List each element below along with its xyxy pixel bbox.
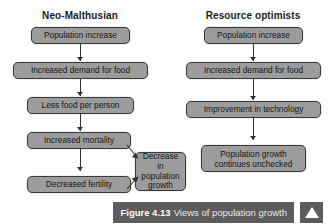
connector-arrowhead-nm3-nm4 [77, 127, 83, 131]
node-decrease-in-population-growth: Decrease in population growth [135, 152, 186, 191]
node-population-growth-continues-unchecked: Population growth continues unchecked [201, 145, 306, 172]
column-heading-neo-malthusian: Neo-Malthusian [24, 10, 136, 21]
connector-arrowhead-ro3-ro4 [250, 136, 256, 140]
column-heading-resource-optimists: Resource optimists [191, 10, 315, 21]
triangle-up-icon [305, 207, 319, 218]
connector-diagonal-mortality-to-decrease [126, 144, 142, 166]
node-improvement-in-technology: Improvement in technology [186, 101, 321, 118]
figure-number-label: Figure 4.13 [120, 207, 170, 218]
connector-arrowhead-nm4-nm5 [77, 167, 83, 171]
figure-container: Neo-Malthusian Population increase Incre… [0, 0, 330, 224]
node-increased-demand-for-food-left: Increased demand for food [13, 62, 148, 79]
node-increased-demand-for-food-right: Increased demand for food [186, 62, 321, 79]
connector-arrowhead-ro1-ro2 [250, 57, 256, 61]
node-decreased-fertility: Decreased fertility [27, 176, 131, 193]
node-population-increase-right: Population increase [204, 27, 303, 44]
figure-caption-text: Views of population growth [174, 207, 287, 218]
node-population-increase-left: Population increase [31, 27, 130, 44]
figure-caption-bar: Figure 4.13 Views of population growth [113, 202, 294, 223]
node-less-food-per-person: Less food per person [27, 97, 134, 114]
connector-diagonal-fertility-to-decrease [126, 175, 142, 195]
connector-arrowhead-nm2-nm3 [77, 92, 83, 96]
connector-arrowhead-nm1-nm2 [77, 57, 83, 61]
node-increased-mortality: Increased mortality [27, 132, 131, 149]
figure-nav-button[interactable] [300, 202, 323, 223]
connector-arrowhead-ro2-ro3 [250, 96, 256, 100]
